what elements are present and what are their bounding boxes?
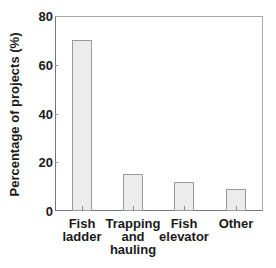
y-tick-80: 80	[39, 9, 53, 24]
y-axis-label: Percentage of projects (%)	[3, 16, 25, 212]
y-tick-mark	[55, 65, 58, 66]
bar-trapping-and-hauling	[123, 174, 143, 211]
bar-other	[226, 189, 246, 211]
bar-fish-elevator	[174, 182, 194, 211]
y-tick-mark	[55, 162, 58, 163]
y-tick-mark	[55, 114, 58, 115]
x-label-other: Other	[201, 217, 271, 230]
y-tick-20: 20	[39, 155, 53, 170]
y-axis-title: Percentage of projects (%)	[7, 32, 22, 196]
y-tick-60: 60	[39, 58, 53, 73]
bar-fish-ladder	[72, 40, 92, 211]
y-tick-40: 40	[39, 107, 53, 122]
